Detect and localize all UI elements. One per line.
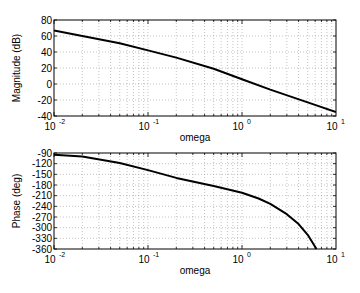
y-tick-label: 20 bbox=[41, 63, 53, 74]
phase-grid bbox=[54, 153, 336, 249]
x-tick-label: 10 bbox=[326, 254, 338, 265]
y-tick-label: 60 bbox=[41, 31, 53, 42]
x-tick-label: 10 bbox=[44, 254, 56, 265]
y-tick-label: -300 bbox=[32, 222, 52, 233]
x-tick-label: 10 bbox=[138, 121, 150, 132]
x-tick-label: 10 bbox=[232, 254, 244, 265]
y-tick-label: 80 bbox=[41, 15, 53, 26]
x-axis-label: omega bbox=[180, 265, 211, 276]
y-tick-label: -90 bbox=[38, 148, 53, 159]
svg-text:-1: -1 bbox=[153, 251, 159, 258]
y-tick-label: -150 bbox=[32, 169, 52, 180]
y-tick-label: -20 bbox=[38, 95, 53, 106]
x-tick-label: 10 bbox=[44, 121, 56, 132]
y-tick-label: -120 bbox=[32, 158, 52, 169]
magnitude-grid bbox=[54, 20, 336, 116]
y-tick-label: -180 bbox=[32, 180, 52, 191]
svg-text:1: 1 bbox=[341, 118, 345, 125]
phase-axes: -90-120-150-180-210-240-270-300-330-3601… bbox=[11, 148, 345, 277]
y-tick-label: -270 bbox=[32, 212, 52, 223]
svg-text:0: 0 bbox=[247, 251, 251, 258]
y-axis-label: Magnitude (dB) bbox=[11, 34, 22, 102]
y-tick-label: 40 bbox=[41, 47, 53, 58]
y-tick-label: -210 bbox=[32, 190, 52, 201]
svg-text:-1: -1 bbox=[153, 118, 159, 125]
y-tick-label: -330 bbox=[32, 233, 52, 244]
svg-text:-2: -2 bbox=[59, 118, 65, 125]
x-tick-label: 10 bbox=[232, 121, 244, 132]
x-tick-label: 10 bbox=[326, 121, 338, 132]
y-axis-label: Phase (deg) bbox=[11, 174, 22, 228]
y-tick-label: -360 bbox=[32, 244, 52, 255]
svg-text:-2: -2 bbox=[59, 251, 65, 258]
x-tick-label: 10 bbox=[138, 254, 150, 265]
svg-text:1: 1 bbox=[341, 251, 345, 258]
y-tick-label: -40 bbox=[38, 111, 53, 122]
bode-plot-figure: 806040200-20-4010-210-1100101omegaMagnit… bbox=[0, 0, 360, 293]
x-axis-label: omega bbox=[180, 132, 211, 143]
phase-curve bbox=[54, 155, 317, 249]
y-tick-label: -240 bbox=[32, 201, 52, 212]
y-tick-label: 0 bbox=[46, 79, 52, 90]
svg-text:0: 0 bbox=[247, 118, 251, 125]
magnitude-axes: 806040200-20-4010-210-1100101omegaMagnit… bbox=[11, 15, 345, 144]
